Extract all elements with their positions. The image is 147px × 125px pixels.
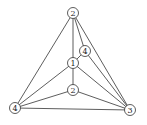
node-n_bl: 4 [10,103,21,114]
node-n_top: 2 [68,8,79,19]
edge-n_center-n_br [73,63,130,110]
graph-diagram: 241243 [0,0,147,125]
edge-n_low-n_bl [15,90,73,108]
edge-n_ur-n_br [85,51,130,110]
edge-n_top-n_br [73,13,130,110]
node-label: 4 [82,47,87,56]
edge-n_center-n_bl [15,63,73,108]
edge-n_top-n_ur [73,13,85,51]
node-n_center: 1 [68,58,79,69]
node-n_low: 2 [68,85,79,96]
node-label: 2 [70,86,75,95]
node-n_ur: 4 [80,46,91,57]
node-label: 2 [70,9,75,18]
node-label: 1 [70,59,75,68]
node-label: 4 [12,104,17,113]
node-label: 3 [127,106,132,115]
edge-n_top-n_bl [15,13,73,108]
edge-n_bl-n_br [15,108,130,110]
edge-n_low-n_br [73,90,130,110]
node-n_br: 3 [125,105,136,116]
